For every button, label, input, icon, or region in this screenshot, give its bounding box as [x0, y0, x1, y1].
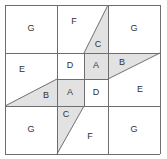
piece-label-d-upper: D — [67, 60, 74, 70]
piece-label-d-lower: D — [93, 87, 100, 97]
piece-label-f-top: F — [71, 16, 77, 26]
dissection-diagram: GFCGEDABBADEGCFG — [0, 0, 167, 159]
piece-label-g-bottom-right: G — [130, 124, 137, 134]
piece-label-b-left: B — [43, 90, 49, 100]
piece-label-a-upper: A — [93, 60, 99, 70]
pinwheel-dissection-figure: GFCGEDABBADEGCFG — [0, 0, 167, 159]
piece-label-a-lower: A — [67, 87, 73, 97]
piece-label-c-top: C — [95, 39, 102, 49]
piece-label-e-left: E — [19, 64, 25, 74]
piece-label-b-right: B — [119, 57, 125, 67]
piece-label-g-bottom-left: G — [27, 124, 34, 134]
piece-label-c-bottom: C — [63, 109, 70, 119]
piece-label-g-top-left: G — [27, 23, 34, 33]
piece-label-g-top-right: G — [130, 23, 137, 33]
piece-label-f-bottom: F — [87, 131, 93, 141]
piece-label-e-right: E — [137, 84, 143, 94]
